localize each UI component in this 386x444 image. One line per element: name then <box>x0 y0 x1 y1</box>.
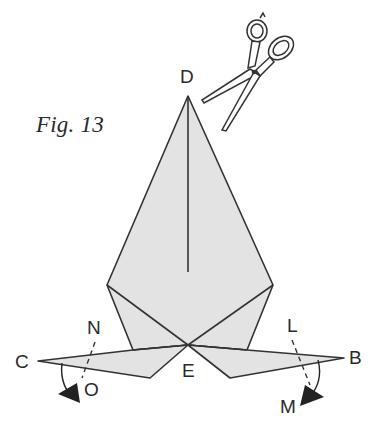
fold-arrow-right <box>300 360 324 406</box>
figure-caption: Fig. 13 <box>36 112 104 138</box>
origami-diagram: Fig. 13 D N L C B E O M <box>0 0 386 444</box>
right-flap <box>188 345 344 378</box>
point-label-b: B <box>349 348 362 367</box>
fold-arrow-left <box>58 363 80 403</box>
point-label-e: E <box>182 361 195 380</box>
kite-body <box>107 96 273 350</box>
scissors-icon <box>202 13 298 131</box>
point-label-m: M <box>280 397 296 416</box>
point-label-d: D <box>180 67 194 86</box>
point-label-c: C <box>15 352 29 371</box>
point-label-o: O <box>84 380 99 399</box>
kite-upper <box>107 96 273 350</box>
left-flap <box>38 345 188 378</box>
point-label-l: L <box>287 316 298 335</box>
point-label-n: N <box>87 318 101 337</box>
